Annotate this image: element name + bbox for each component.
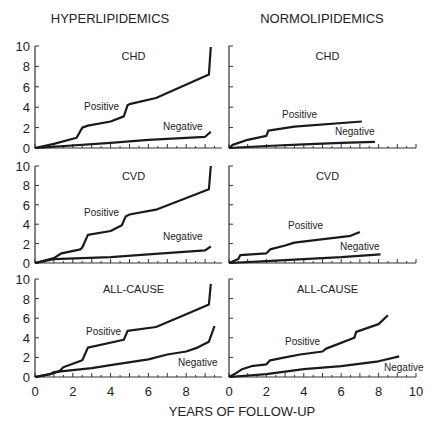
x-tick-label: 10 — [409, 384, 423, 399]
y-tick-label: 4 — [23, 217, 30, 232]
series-negative — [35, 132, 211, 148]
panel-title: CHD — [316, 50, 340, 62]
y-tick-label: 8 — [23, 178, 30, 193]
panel-title: CHD — [122, 50, 146, 62]
series-label-positive: Positive — [288, 220, 323, 231]
column-title-hyper: HYPERLIPIDEMICS — [51, 11, 170, 26]
series-label-negative: Negative — [163, 231, 203, 242]
y-tick-label: 6 — [23, 80, 30, 95]
x-tick-label: 4 — [107, 384, 114, 399]
x-tick-label: 8 — [183, 384, 190, 399]
y-tick-label: 0 — [23, 141, 30, 156]
series-negative — [229, 254, 381, 263]
panel-title: ALL-CAUSE — [297, 283, 358, 295]
panel-title: CVD — [316, 170, 339, 182]
chart-grid: HYPERLIPIDEMICSNORMOLIPIDEMICS0246810CHD… — [0, 0, 436, 432]
y-tick-label: 10 — [16, 39, 30, 54]
series-label-positive: Positive — [285, 336, 320, 347]
y-tick-label: 4 — [23, 100, 30, 115]
x-tick-label: 0 — [31, 384, 38, 399]
y-tick-label: 0 — [23, 256, 30, 271]
y-tick-label: 0 — [23, 370, 30, 385]
series-label-negative: Negative — [178, 357, 218, 368]
series-positive — [35, 47, 211, 148]
series-label-negative: Negative — [163, 121, 203, 132]
y-tick-label: 2 — [23, 350, 30, 365]
x-tick-label: 0 — [225, 384, 232, 399]
series-negative — [229, 142, 375, 148]
y-tick-label: 8 — [23, 59, 30, 74]
y-tick-label: 6 — [23, 198, 30, 213]
y-tick-label: 2 — [23, 237, 30, 252]
column-title-normo: NORMOLIPIDEMICS — [260, 11, 384, 26]
series-label-negative: Negative — [335, 126, 375, 137]
series-label-negative: Negative — [384, 362, 424, 373]
x-tick-label: 2 — [263, 384, 270, 399]
x-axis-title: YEARS OF FOLLOW-UP — [169, 404, 315, 419]
y-tick-label: 6 — [23, 311, 30, 326]
y-tick-label: 4 — [23, 331, 30, 346]
y-tick-label: 8 — [23, 292, 30, 307]
panel-title: CVD — [122, 170, 145, 182]
y-tick-label: 10 — [16, 272, 30, 287]
series-negative — [35, 247, 211, 264]
series-label-positive: Positive — [84, 207, 119, 218]
x-tick-label: 4 — [300, 384, 307, 399]
x-tick-label: 6 — [338, 384, 345, 399]
series-label-positive: Positive — [84, 101, 119, 112]
series-label-negative: Negative — [340, 241, 380, 252]
panel-title: ALL-CAUSE — [103, 283, 164, 295]
x-tick-label: 2 — [69, 384, 76, 399]
y-tick-label: 10 — [16, 159, 30, 174]
x-tick-label: 6 — [145, 384, 152, 399]
series-label-positive: Positive — [86, 326, 121, 337]
y-tick-label: 2 — [23, 121, 30, 136]
x-tick-label: 8 — [375, 384, 382, 399]
series-label-positive: Positive — [282, 109, 317, 120]
